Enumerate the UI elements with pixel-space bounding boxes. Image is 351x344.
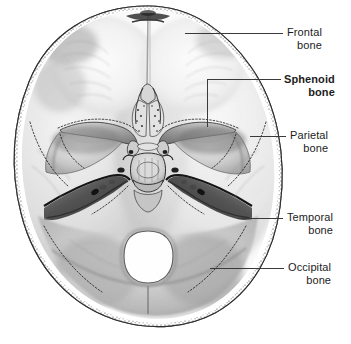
- label-parietal-line1: Parietal: [290, 129, 328, 142]
- label-parietal: Parietalbone: [290, 129, 328, 155]
- label-occipital-line2: bone: [288, 274, 331, 287]
- label-occipital-line1: Occipital: [288, 261, 331, 274]
- label-temporal-line1: Temporal: [287, 211, 333, 224]
- label-parietal-line2: bone: [290, 142, 328, 155]
- label-frontal-line2: bone: [287, 39, 322, 52]
- label-temporal: Temporalbone: [287, 211, 333, 237]
- label-occipital: Occipitalbone: [288, 261, 331, 287]
- label-sphenoid: Sphenoidbone: [284, 73, 335, 99]
- label-frontal-line1: Frontal: [287, 26, 322, 39]
- label-sphenoid-line2: bone: [284, 86, 335, 99]
- label-temporal-line2: bone: [287, 224, 333, 237]
- label-frontal: Frontalbone: [287, 26, 322, 52]
- label-sphenoid-line1: Sphenoid: [284, 73, 335, 86]
